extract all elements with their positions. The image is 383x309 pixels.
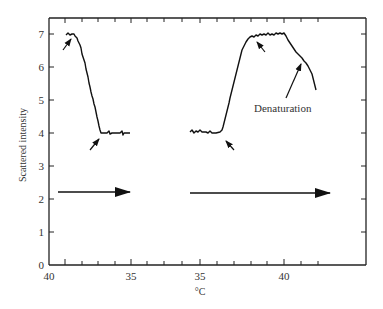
- y-tick-6: 6: [39, 61, 45, 73]
- arrow-heating-top: [257, 42, 265, 52]
- y-axis-label: Scattered intensity: [17, 108, 28, 182]
- y-tick-labels: 0 1 2 3 4 5 6 7: [39, 28, 45, 271]
- pointer-arrows: [63, 39, 301, 150]
- y-tick-2: 2: [39, 193, 45, 205]
- x-tick-right-35: 35: [195, 270, 207, 282]
- x-tick-labels: 40 35 35 40: [44, 270, 291, 282]
- x-axis-label: °C: [195, 286, 206, 297]
- y-tick-5: 5: [39, 94, 45, 106]
- x-axis-ticks: [65, 18, 318, 265]
- y-tick-1: 1: [39, 226, 45, 238]
- arrow-denaturation: [286, 64, 301, 98]
- y-tick-4: 4: [39, 127, 45, 139]
- arrow-heating-onset: [226, 141, 234, 150]
- x-tick-left-35: 35: [126, 270, 138, 282]
- cooling-curve: [66, 33, 130, 135]
- x-tick-left-40: 40: [44, 270, 56, 282]
- chart: 0 1 2 3 4 5 6 7: [0, 0, 383, 309]
- denaturation-label: Denaturation: [254, 102, 312, 114]
- y-tick-3: 3: [39, 160, 45, 172]
- arrow-cooling-bottom: [90, 139, 99, 150]
- x-tick-right-40: 40: [279, 270, 291, 282]
- y-tick-7: 7: [39, 28, 45, 40]
- arrow-cooling-top: [63, 39, 71, 50]
- heating-curve: [190, 33, 316, 133]
